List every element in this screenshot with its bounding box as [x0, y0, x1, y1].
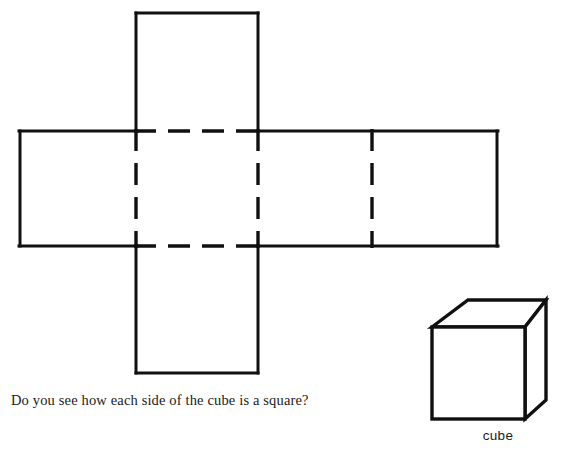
net-fold-lines — [134, 129, 372, 248]
worksheet-page: Do you see how each side of the cube is … — [0, 0, 588, 456]
question-caption: Do you see how each side of the cube is … — [11, 392, 309, 409]
cube-3d-drawing — [420, 288, 565, 433]
cube-front-face — [432, 327, 525, 419]
cube-label: cube — [455, 428, 541, 443]
